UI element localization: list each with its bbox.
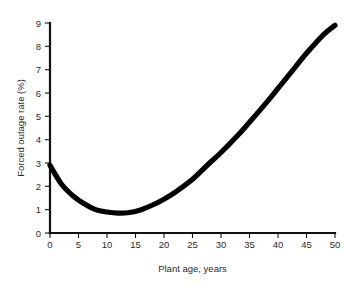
forced-outage-rate-chart: 9 8 7 6 5 4 3 2 1 0 0 5	[0, 0, 351, 286]
y-tick-label: 0	[36, 228, 41, 239]
y-tick-label: 2	[36, 181, 41, 192]
x-tick-label: 35	[244, 239, 255, 250]
chart-figure: 9 8 7 6 5 4 3 2 1 0 0 5	[0, 0, 351, 286]
y-tick-label: 5	[36, 111, 41, 122]
y-tick-label: 9	[36, 18, 41, 29]
y-tick-label: 1	[36, 204, 41, 215]
y-axis-title: Forced outage rate (%)	[15, 79, 26, 177]
x-tick-label: 0	[47, 239, 52, 250]
y-tick-label: 3	[36, 158, 41, 169]
x-tick-label: 5	[76, 239, 81, 250]
x-tick-label: 40	[273, 239, 284, 250]
x-tick-label: 15	[130, 239, 141, 250]
y-tick-label: 7	[36, 64, 41, 75]
y-tick-label: 6	[36, 88, 41, 99]
x-tick-label: 45	[301, 239, 312, 250]
x-tick-label: 50	[330, 239, 341, 250]
x-tick-label: 25	[187, 239, 198, 250]
x-tick-label: 10	[102, 239, 113, 250]
x-axis-title: Plant age, years	[158, 263, 227, 274]
x-tick-label: 30	[216, 239, 227, 250]
y-tick-label: 8	[36, 41, 41, 52]
y-tick-label: 4	[36, 134, 41, 145]
x-tick-label: 20	[159, 239, 170, 250]
